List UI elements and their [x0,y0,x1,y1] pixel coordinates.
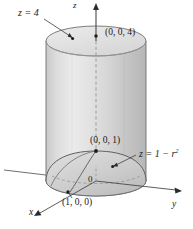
figure-canvas [0,0,193,229]
point-marker-x [66,190,69,193]
label-paraboloid-equation-exponent: 2 [175,147,178,154]
label-axis-y: y [172,200,176,210]
label-point-1-0-0: (1, 0, 0) [62,198,92,208]
label-paraboloid-equation-body: z = 1 − r [139,148,175,159]
point-marker-paraboloid-target [111,165,114,168]
cylinder-paraboloid-3d-figure: z = 4 (0, 0, 4) z (0, 0, 1) z = 1 − r2 0… [0,0,193,229]
point-marker-z4-target [71,37,74,40]
label-point-0-0-4: (0, 0, 4) [105,28,135,38]
label-axis-x: x [29,208,33,218]
label-plane-z-equals-4: z = 4 [18,8,39,18]
point-marker-apex [94,149,98,153]
label-axis-z: z [73,1,77,10]
label-origin: 0 [88,175,93,184]
axis-y-arrowhead [175,188,182,194]
label-point-0-0-1: (0, 0, 1) [90,136,120,146]
label-paraboloid-equation: z = 1 − r2 [139,148,178,159]
axis-z-arrowhead [93,3,99,10]
point-marker-top [94,34,97,37]
